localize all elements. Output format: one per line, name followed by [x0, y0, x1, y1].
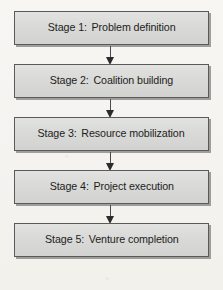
- stage-node-3-name: Resource mobilization: [82, 127, 185, 139]
- connector-stage-4-to-stage-5: [105, 205, 117, 224]
- connector-stage-3-to-stage-4: [105, 152, 117, 171]
- stage-node-1-name: Problem definition: [91, 21, 175, 33]
- stage-node-5-key: Stage 5:: [45, 233, 84, 245]
- stage-node-3-label: Stage 3:Resource mobilization: [38, 128, 185, 140]
- stage-node-4-key: Stage 4:: [49, 180, 88, 192]
- connector-stage-1-to-stage-2: [105, 46, 117, 65]
- stage-node-5[interactable]: Stage 5:Venture completion: [14, 223, 209, 257]
- stage-flowchart: Stage 1:Problem definition Stage 2:Coali…: [0, 0, 223, 290]
- stage-node-1-label: Stage 1:Problem definition: [48, 22, 176, 34]
- stage-node-4-name: Project execution: [93, 180, 173, 192]
- stage-node-2-name: Coalition building: [93, 74, 173, 86]
- stage-node-1-key: Stage 1:: [48, 21, 87, 33]
- stage-node-2[interactable]: Stage 2:Coalition building: [14, 64, 209, 98]
- stage-node-2-key: Stage 2:: [50, 74, 89, 86]
- stage-node-1[interactable]: Stage 1:Problem definition: [14, 11, 209, 45]
- stage-node-5-label: Stage 5:Venture completion: [45, 234, 179, 246]
- stage-node-3[interactable]: Stage 3:Resource mobilization: [14, 117, 209, 151]
- stage-node-2-label: Stage 2:Coalition building: [50, 75, 174, 87]
- stage-node-3-key: Stage 3:: [38, 127, 77, 139]
- stage-node-5-name: Venture completion: [88, 233, 178, 245]
- connector-stage-2-to-stage-3: [105, 99, 117, 118]
- stage-node-4-label: Stage 4:Project execution: [49, 181, 173, 193]
- stage-node-4[interactable]: Stage 4:Project execution: [14, 170, 209, 204]
